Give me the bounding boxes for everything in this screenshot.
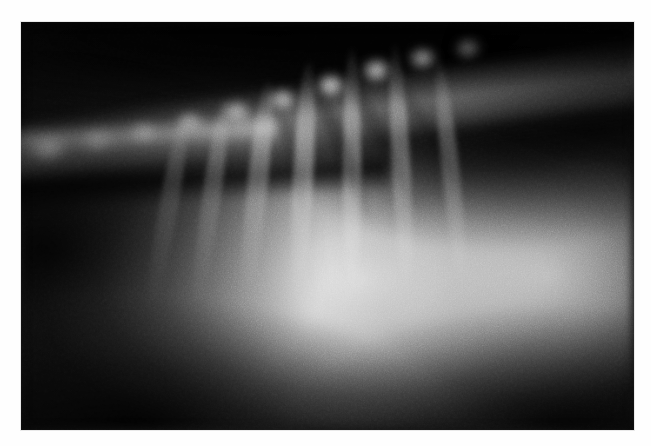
screenshot-viewport <box>0 0 651 446</box>
radiograph-image <box>21 22 634 430</box>
